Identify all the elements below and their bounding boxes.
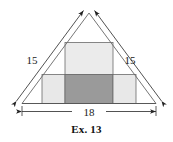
bottom-left-square	[42, 75, 65, 104]
bottom-center-square	[65, 75, 113, 104]
upper-square	[65, 43, 113, 75]
triangle-figure-svg: 15 15 18	[0, 0, 173, 142]
bottom-right-square	[113, 75, 136, 104]
right-leg-label: 15	[125, 54, 137, 66]
figure-caption: Ex. 13	[0, 123, 173, 136]
base-label: 18	[84, 106, 96, 118]
figure-container: 15 15 18 Ex. 13	[0, 0, 173, 142]
left-leg-label: 15	[27, 54, 39, 66]
